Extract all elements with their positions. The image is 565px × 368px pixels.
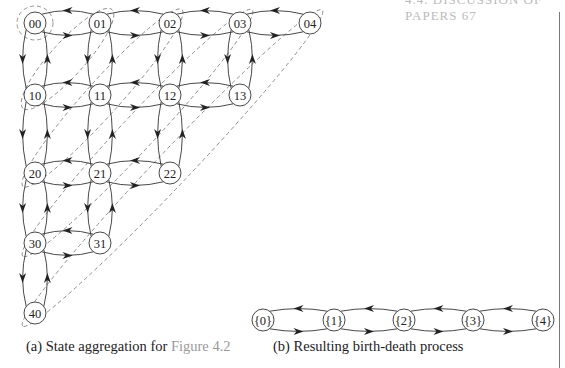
subfigure-a-caption: (a) State aggregation for Figure 4.2 (26, 338, 231, 355)
state-node: 11 (89, 84, 111, 106)
state-node: {3} (462, 309, 484, 331)
svg-text:{1}: {1} (325, 314, 343, 328)
state-node: 31 (89, 232, 111, 254)
svg-text:11: 11 (94, 89, 106, 103)
subfigure-b-caption: (b) Resulting birth-death process (273, 338, 463, 355)
state-node: 10 (24, 84, 46, 106)
svg-text:{2}: {2} (395, 314, 413, 328)
svg-text:04: 04 (304, 17, 317, 31)
state-node: 22 (159, 162, 181, 184)
state-node: 20 (24, 162, 46, 184)
state-node: 13 (229, 84, 251, 106)
svg-text:40: 40 (29, 307, 42, 321)
svg-text:00: 00 (29, 17, 42, 31)
state-node: 00 (24, 12, 46, 34)
state-node: 03 (229, 12, 251, 34)
state-node: {4} (532, 309, 554, 331)
state-node: 12 (159, 84, 181, 106)
state-node: 04 (299, 12, 321, 34)
state-node: {0} (252, 309, 274, 331)
caption-a-text: (a) State aggregation for (26, 338, 171, 354)
svg-text:20: 20 (29, 167, 42, 181)
state-node: 30 (24, 232, 46, 254)
state-node: 02 (159, 12, 181, 34)
svg-text:30: 30 (29, 237, 42, 251)
svg-text:{3}: {3} (464, 314, 482, 328)
state-node: {2} (393, 309, 415, 331)
svg-text:12: 12 (164, 89, 177, 103)
svg-text:{4}: {4} (534, 314, 552, 328)
state-node: 01 (89, 12, 111, 34)
state-nodes: 000102030410111213202122303140{0}{1}{2}{… (24, 12, 554, 331)
figure-ref-link[interactable]: Figure 4.2 (171, 338, 231, 354)
svg-text:02: 02 (164, 17, 177, 31)
svg-text:31: 31 (94, 237, 107, 251)
svg-text:10: 10 (29, 89, 42, 103)
svg-text:21: 21 (94, 167, 107, 181)
svg-text:22: 22 (164, 167, 177, 181)
svg-text:03: 03 (234, 17, 247, 31)
state-node: 40 (24, 302, 46, 324)
state-diagram: 000102030410111213202122303140{0}{1}{2}{… (0, 0, 565, 368)
svg-text:13: 13 (234, 89, 247, 103)
svg-text:01: 01 (94, 17, 107, 31)
state-node: 21 (89, 162, 111, 184)
state-node: {1} (323, 309, 345, 331)
svg-text:{0}: {0} (254, 314, 272, 328)
